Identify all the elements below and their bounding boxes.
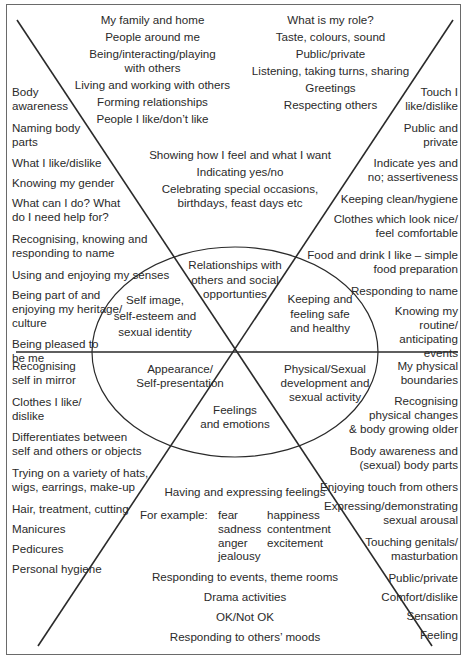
list-item: My physical boundaries [320,359,458,394]
list-item: Clothes I like/ dislike [12,395,148,430]
bottom-heading: Having and expressing feelings [130,485,360,499]
list-item: Clothes which look nice/ feel comfortabl… [307,212,458,248]
list-item: What is my role? [248,13,413,30]
examples-negative: fear sadness anger jealousy [218,508,261,563]
list-item: Responding to others’ moods [130,630,360,650]
example-item: sadness [218,522,261,536]
list-item: Body awareness [12,84,169,121]
examples-positive: happiness contentment excitement [267,508,331,549]
list-item: Expressing/demonstrating sexual arousal [320,499,458,535]
list-item: Pedicures [12,542,148,562]
list-item: Drama activities [130,590,360,610]
center-label-self-image: Self image, self-esteem and sexual ident… [100,292,210,340]
list-item: Public/private [248,47,413,64]
list-item: Personal hygiene [12,562,148,582]
list-item: Trying on a variety of hats, wigs, earri… [12,466,148,502]
list-item: Manicures [12,522,148,542]
list-item: Listening, taking turns, sharing [248,64,413,81]
list-item: OK/Not OK [130,610,360,630]
list-item: Being/interacting/playing with others [70,47,235,78]
center-label-feelings: Feelings and emotions [185,403,285,431]
list-item: People around me [70,30,235,47]
example-item: excitement [267,536,331,550]
list-item: Food and drink I like – simple food prep… [307,248,458,284]
lower-left-list: Recognising self in mirror Clothes I lik… [12,359,148,582]
bottom-list: Responding to events, theme rooms Drama … [130,570,360,650]
list-item: Indicate yes and no; assertiveness [307,156,458,192]
list-item: Responding to events, theme rooms [130,570,360,590]
list-item: Keeping clean/hygiene [307,192,458,212]
list-item: Body awareness and (sexual) body parts [320,444,458,480]
example-label: For example: [140,508,208,522]
list-item: Naming body parts [12,121,169,156]
list-item: My family and home [70,13,235,30]
example-item: fear [218,508,261,522]
list-item: Recognising self in mirror [12,359,148,395]
example-item: anger [218,536,261,550]
list-item: What can I do? What do I need help for? [12,196,169,232]
example-item: jealousy [218,549,261,563]
center-label-keeping-safe: Keeping and feeling safe and healthy [265,292,375,336]
list-item: Hair, treatment, cutting [12,502,148,522]
list-item: Public and private [307,121,458,156]
example-item: contentment [267,522,331,536]
list-item: Differentiates between self and others o… [12,430,148,466]
list-item: Using and enjoying my senses [12,268,169,288]
list-item: Touching genitals/ masturbation [320,535,458,571]
example-item: happiness [267,508,331,522]
list-item: Taste, colours, sound [248,30,413,47]
list-item: What I like/dislike [12,156,169,176]
list-item: Touch I like/dislike [307,84,458,121]
list-item: Recognising physical changes & body grow… [320,394,458,444]
list-item: Recognising, knowing and responding to n… [12,232,169,268]
list-item: Knowing my gender [12,176,169,196]
